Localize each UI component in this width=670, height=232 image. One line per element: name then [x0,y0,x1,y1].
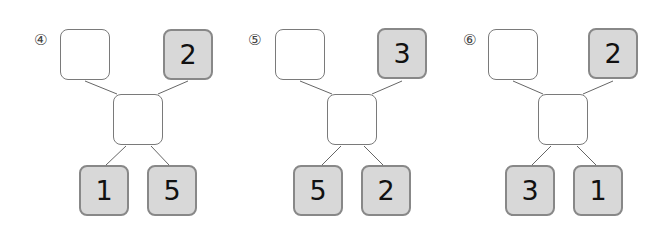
top-right-number-box: 2 [588,28,638,79]
bottom-left-number-box: 1 [79,165,129,216]
middle-answer-box[interactable] [538,94,588,145]
bottom-left-number-box: 3 [505,165,555,216]
top-left-answer-box[interactable] [488,29,538,80]
problem-number: ⑤ [248,33,261,48]
middle-answer-box[interactable] [113,94,163,145]
problem-4: ④ 2 1 5 [0,0,225,232]
bottom-right-number-box: 2 [361,165,411,216]
problem-number: ④ [34,33,47,48]
bottom-right-number-box: 5 [147,165,197,216]
problem-6: ⑥ 2 3 1 [450,0,670,232]
top-left-answer-box[interactable] [275,29,325,80]
top-left-answer-box[interactable] [60,29,110,80]
top-right-number-box: 2 [163,29,213,80]
middle-answer-box[interactable] [327,94,377,145]
problem-number: ⑥ [463,33,476,48]
top-right-number-box: 3 [377,28,427,79]
bottom-left-number-box: 5 [293,165,343,216]
problem-5: ⑤ 3 5 2 [230,0,450,232]
bottom-right-number-box: 1 [573,165,623,216]
